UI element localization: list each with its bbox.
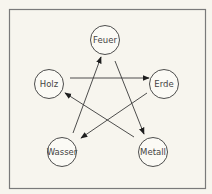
node-label-holz: Holz (29, 79, 69, 89)
node-label-metall: Metall (133, 147, 173, 157)
node-label-erde: Erde (144, 79, 184, 89)
node-label-wasser: Wasser (42, 147, 82, 157)
node-label-feuer: Feuer (85, 35, 125, 45)
diagram-canvas (0, 0, 212, 194)
edge-wasser-feuer (73, 57, 101, 133)
five-elements-diagram: Feuer Erde Metall Wasser Holz (0, 0, 212, 194)
edge-metall-holz (65, 93, 134, 137)
